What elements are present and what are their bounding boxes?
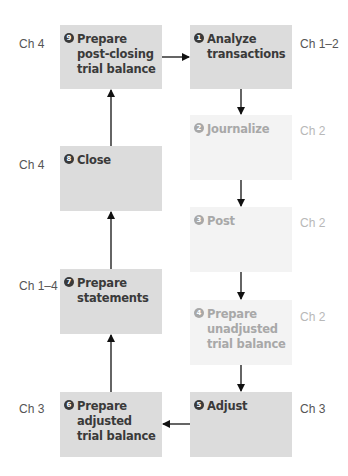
step-box-9: 9 Prepare post-closing trial balance <box>60 25 162 89</box>
chapter-label-1: Ch 1–2 <box>300 37 339 51</box>
step-number-badge: 7 <box>64 277 74 287</box>
step-box-5: 5 Adjust <box>190 392 292 457</box>
step-label: Analyze transactions <box>207 32 286 62</box>
chapter-label-9: Ch 4 <box>19 37 44 51</box>
step-number-badge: 8 <box>64 154 74 164</box>
chapter-label-6: Ch 3 <box>19 402 44 416</box>
chapter-label-4: Ch 2 <box>300 310 325 324</box>
step-box-4: 4 Prepare unadjusted trial balance <box>190 300 292 365</box>
step-box-1: 1 Analyze transactions <box>190 25 292 89</box>
step-number-badge: 9 <box>64 33 74 43</box>
step-box-8: 8 Close <box>60 146 162 211</box>
step-box-7: 7 Prepare statements <box>60 269 162 334</box>
chapter-label-7: Ch 1–4 <box>19 279 58 293</box>
step-number-badge: 6 <box>64 400 74 410</box>
step-label: Adjust <box>207 399 247 414</box>
step-box-2: 2 Journalize <box>190 115 292 180</box>
chapter-label-2: Ch 2 <box>300 124 325 138</box>
step-label: Post <box>207 214 235 229</box>
flow-arrows <box>0 0 348 476</box>
step-label: Prepare post-closing trial balance <box>77 32 156 77</box>
step-label: Prepare statements <box>77 276 149 306</box>
step-label: Prepare adjusted trial balance <box>77 399 156 444</box>
chapter-label-3: Ch 2 <box>300 216 325 230</box>
step-label: Prepare unadjusted trial balance <box>207 307 286 352</box>
step-box-3: 3 Post <box>190 207 292 272</box>
step-label: Journalize <box>207 122 269 137</box>
chapter-label-8: Ch 4 <box>19 158 44 172</box>
step-number-badge: 3 <box>194 215 204 225</box>
chapter-label-5: Ch 3 <box>300 402 325 416</box>
step-number-badge: 4 <box>194 308 204 318</box>
step-number-badge: 2 <box>194 123 204 133</box>
step-box-6: 6 Prepare adjusted trial balance <box>60 392 162 457</box>
step-number-badge: 5 <box>194 400 204 410</box>
step-label: Close <box>77 153 111 168</box>
step-number-badge: 1 <box>194 33 204 43</box>
